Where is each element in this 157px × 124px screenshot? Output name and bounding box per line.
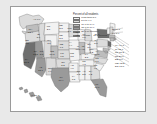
state-label-GA: GA9.2 (89, 71, 93, 76)
state-label-SC: SC4.7 (94, 65, 97, 70)
state-label-MS: MS1.8 (77, 71, 81, 76)
state-value: 6.1 (60, 47, 63, 50)
state-label-OR: OR9.7 (25, 40, 29, 45)
state-label-NM: NM9.9 (48, 68, 52, 73)
state-label-NV: NV18.8 (33, 51, 38, 56)
state-value: 5.2 (61, 65, 65, 68)
callout-label: DC 13.0 (115, 66, 124, 69)
callout-label: VT 3.9 (112, 33, 119, 36)
state-value: 18.8 (33, 54, 38, 57)
state-label-MT: MT2.0 (47, 26, 51, 31)
state-value: 2.3 (59, 38, 62, 41)
state-label-MO: MO3.8 (70, 53, 74, 58)
state-value: 4.5 (81, 49, 84, 52)
map-figure-panel: Percent of all residents Less than 5.0 5… (10, 6, 146, 112)
callout-label: AK 6.9 (33, 19, 41, 22)
state-value: 19.0 (95, 87, 100, 90)
state-label-WA: WA12.4 (28, 29, 33, 34)
state-value: 1.2 (89, 52, 93, 55)
state-label-CA: CA27.2 (24, 59, 29, 64)
state-value: 4.3 (82, 64, 85, 67)
state-value: 2.3 (59, 28, 63, 31)
state-label-TX: TX16.4 (59, 77, 64, 82)
state-value: 8.3 (40, 54, 43, 57)
state-label-CO: CO10.3 (50, 51, 55, 56)
state-value: 2.0 (47, 29, 51, 32)
legend-swatch-0 (73, 17, 80, 20)
state-value: 21.6 (95, 34, 100, 37)
state-value: 4.7 (94, 68, 97, 71)
state-NJ (108, 41, 111, 47)
state-label-AR: AR4.0 (70, 65, 73, 70)
legend-swatch-3 (73, 27, 80, 30)
state-label-KS: KS6.5 (60, 53, 63, 58)
state-label-ND: ND2.3 (59, 25, 63, 30)
state-CT (110, 38, 114, 41)
state-label-WY: WY3.1 (47, 40, 51, 45)
state-value: 3.8 (72, 79, 75, 82)
state-value: 4.0 (70, 68, 73, 71)
state-TN (79, 60, 94, 66)
state-value: 9.9 (48, 71, 52, 74)
state-value: 3.8 (70, 56, 74, 59)
callout-label: HI 16.3 (31, 95, 39, 98)
state-label-NY: NY21.6 (95, 31, 100, 36)
state-value: 6.6 (68, 31, 72, 34)
state-value: 4.4 (69, 45, 72, 48)
state-label-VA: VA10.8 (95, 51, 100, 56)
state-label-NC: NC7.0 (95, 58, 99, 63)
state-value: 2.8 (82, 74, 85, 77)
state-label-TN: TN4.3 (82, 61, 85, 66)
state-label-OK: OK5.2 (61, 62, 65, 67)
state-label-IN: IN4.5 (81, 46, 84, 51)
state-value: 9.2 (89, 74, 93, 77)
screenshot-root: Percent of all residents Less than 5.0 5… (0, 0, 157, 124)
state-value: 2.8 (85, 57, 88, 60)
state-value: 12.4 (28, 32, 33, 35)
state-value: 13.7 (76, 49, 81, 52)
state-label-AL: AL2.8 (82, 71, 85, 76)
state-value: 5.9 (37, 37, 40, 40)
state-value: 5.6 (94, 43, 97, 46)
state-PA (97, 39, 108, 47)
state-label-SD: SD2.3 (59, 35, 62, 40)
state-label-MN: MN6.6 (68, 28, 72, 33)
state-label-WV: WV1.2 (89, 49, 93, 54)
state-value: 7.0 (95, 61, 99, 64)
state-label-PA: PA5.6 (94, 40, 97, 45)
state-label-KY: KY2.8 (85, 54, 88, 59)
map-plot-area: Percent of all residents Less than 5.0 5… (11, 7, 145, 111)
state-label-WI: WI4.5 (75, 32, 78, 37)
state-value: 4.5 (75, 35, 78, 38)
state-label-UT: UT8.3 (40, 51, 43, 56)
state-label-AZ: AZ15.1 (38, 67, 43, 72)
state-label-ID: ID5.9 (37, 34, 40, 39)
state-label-MI: MI6.0 (82, 34, 85, 39)
state-label-IA: IA4.4 (69, 42, 72, 47)
state-label-LA: LA3.8 (72, 76, 75, 81)
state-value: 6.5 (60, 56, 63, 59)
state-label-IL: IL13.7 (76, 46, 81, 51)
state-label-NE: NE6.1 (60, 44, 63, 49)
state-value: 6.0 (82, 37, 85, 40)
state-value: 3.1 (47, 43, 51, 46)
state-label-FL: FL19.0 (95, 84, 100, 89)
state-value: 1.8 (77, 74, 81, 77)
state-value: 10.3 (50, 54, 55, 57)
legend-swatch-2 (73, 24, 80, 27)
state-value: 9.7 (25, 43, 29, 46)
state-DC (105, 51, 107, 53)
state-value: 15.1 (38, 70, 43, 73)
state-value: 10.8 (95, 54, 100, 57)
legend-swatch-1 (73, 20, 80, 23)
state-value: 16.4 (59, 80, 64, 83)
state-RI (114, 38, 116, 40)
state-value: 27.2 (24, 62, 29, 65)
